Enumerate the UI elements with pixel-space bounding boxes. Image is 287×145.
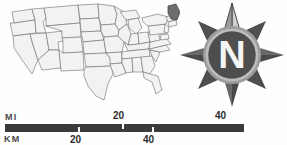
scale-unit-miles: MI — [5, 112, 17, 122]
scale-tick-mi-20 — [122, 124, 124, 129]
map-figure: N MI 20 40 KM 20 40 — [0, 0, 287, 145]
scale-bar-panel: MI 20 40 KM 20 40 — [0, 110, 287, 145]
scale-tick-label-mi-20: 20 — [113, 110, 124, 121]
scale-tick-km-20 — [78, 127, 80, 132]
scale-tick-km-40 — [152, 127, 154, 132]
scale-tick-label-mi-40: 40 — [215, 110, 226, 121]
united-states-map[interactable] — [0, 0, 180, 112]
scale-tick-label-km-20: 20 — [70, 134, 81, 145]
scale-bar — [5, 124, 244, 132]
compass-north-label: N — [218, 34, 245, 76]
scale-tick-label-km-40: 40 — [143, 134, 154, 145]
compass-panel: N — [178, 0, 286, 110]
map-panel — [0, 0, 180, 112]
compass-rose[interactable]: N — [178, 0, 286, 110]
scale-unit-kilometers: KM — [4, 134, 20, 144]
